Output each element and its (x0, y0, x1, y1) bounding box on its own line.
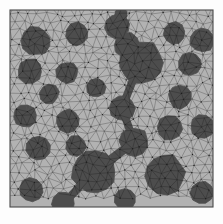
mesh-figure-canvas (0, 0, 223, 224)
inclusion-inc-18 (157, 116, 182, 140)
figure-root (0, 0, 223, 224)
